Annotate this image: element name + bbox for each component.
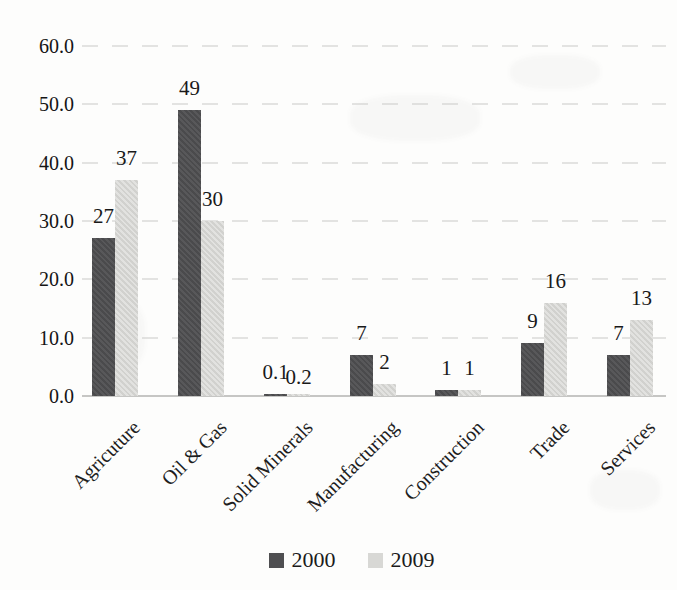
value-label-2009: 30 xyxy=(181,187,245,211)
y-axis-tick-label: 50.0 xyxy=(0,93,74,115)
scan-smudge xyxy=(350,95,480,141)
bar-2009-solid-minerals xyxy=(287,394,310,396)
value-label-2009: 0.2 xyxy=(267,365,331,389)
y-axis-tick-label: 60.0 xyxy=(0,35,74,57)
category-label-solid-minerals: Solid Minerals xyxy=(217,416,317,516)
category-label-manufacturing: Manufacturing xyxy=(303,416,403,516)
value-label-2000: 49 xyxy=(158,76,222,100)
scan-smudge xyxy=(510,55,600,89)
y-axis-tick-label: 20.0 xyxy=(0,268,74,290)
gridline-30 xyxy=(82,220,666,222)
value-label-2009: 2 xyxy=(353,350,417,374)
value-label-2009: 1 xyxy=(438,356,502,380)
bar-2009-oil-gas xyxy=(201,221,224,396)
legend-swatch-2000 xyxy=(269,553,284,568)
category-label-agricuture: Agricuture xyxy=(68,416,146,494)
gridline-40 xyxy=(82,162,666,164)
scan-smudge xyxy=(590,470,660,510)
bar-2000-construction xyxy=(435,390,458,396)
legend-item-2000: 2000 xyxy=(269,549,336,571)
bar-2009-trade xyxy=(544,303,567,396)
value-label-2009: 37 xyxy=(95,146,159,170)
value-label-2009: 16 xyxy=(524,269,588,293)
bar-2009-manufacturing xyxy=(373,384,396,396)
legend-swatch-2009 xyxy=(368,553,383,568)
gridline-50 xyxy=(82,103,666,105)
y-axis-tick-label: 40.0 xyxy=(0,152,74,174)
category-label-oil-gas: Oil & Gas xyxy=(157,416,231,490)
legend-label-2000: 2000 xyxy=(292,549,336,571)
category-label-services: Services xyxy=(596,416,660,480)
bar-2000-solid-minerals xyxy=(264,394,287,396)
value-label-2009: 13 xyxy=(610,286,674,310)
y-axis-tick-label: 10.0 xyxy=(0,327,74,349)
bar-2000-agricuture xyxy=(92,238,115,396)
value-label-2000: 7 xyxy=(330,321,394,345)
bar-2000-trade xyxy=(521,343,544,396)
clipped-chart-title: in Current Prices xyxy=(0,0,677,5)
bar-2009-services xyxy=(630,320,653,396)
chart-legend: 20002009 xyxy=(0,548,677,572)
y-axis-tick-label: 30.0 xyxy=(0,210,74,232)
legend-item-2009: 2009 xyxy=(368,549,435,571)
category-label-trade: Trade xyxy=(526,416,575,465)
legend-label-2009: 2009 xyxy=(391,549,435,571)
bar-2000-oil-gas xyxy=(178,110,201,396)
scanned-bar-chart: in Current Prices 60.050.040.030.020.010… xyxy=(0,0,677,590)
bar-2000-services xyxy=(607,355,630,396)
bar-2009-agricuture xyxy=(115,180,138,396)
y-axis-tick-label: 0.0 xyxy=(0,385,74,407)
bar-2009-construction xyxy=(458,390,481,396)
gridline-60 xyxy=(82,45,666,47)
category-label-construction: Construction xyxy=(399,416,488,505)
